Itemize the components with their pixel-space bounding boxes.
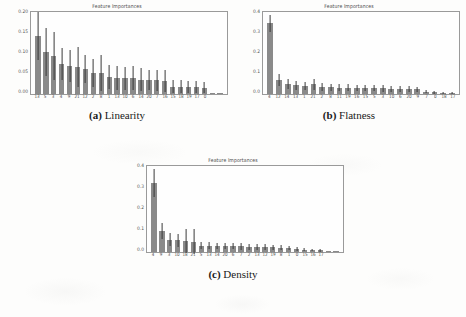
bar-slot	[192, 12, 200, 94]
caption-label: (a)	[89, 109, 102, 121]
x-axis-tick: 13	[291, 95, 300, 100]
x-axis-tick: 13	[253, 253, 261, 258]
bar-slot	[145, 12, 153, 94]
y-axis-tick: 0.0	[137, 247, 144, 252]
bar	[154, 80, 159, 94]
error-bar	[225, 243, 226, 250]
error-bar	[93, 59, 94, 87]
panel-density: Feature Importances0.40.30.20.10.0493101…	[122, 158, 344, 280]
bar-slot	[404, 12, 413, 94]
error-bar	[296, 247, 297, 251]
bar-slot	[34, 12, 42, 94]
error-bar	[348, 84, 349, 91]
x-axis-tick: 15	[301, 253, 309, 258]
x-axis-tick: 11	[335, 95, 344, 100]
bar-slot	[190, 166, 198, 252]
error-bar	[408, 86, 409, 91]
bar-slot	[174, 166, 182, 252]
bar	[114, 78, 119, 94]
bar	[276, 80, 282, 94]
bar-slot	[58, 12, 66, 94]
bar-slot	[150, 166, 158, 252]
panel-caption: (a) Linearity	[6, 109, 228, 121]
error-bar	[77, 47, 78, 87]
bar-slot	[387, 12, 396, 94]
bar-slot	[74, 12, 82, 94]
plot-area: 0.40.30.20.10.0	[122, 165, 344, 253]
bar-slot	[121, 12, 129, 94]
error-bar	[196, 81, 197, 94]
plot-axes	[262, 11, 460, 95]
error-bar	[172, 80, 173, 93]
bar-slot	[301, 166, 309, 252]
error-bar	[249, 244, 250, 250]
error-bar	[264, 244, 265, 250]
y-axis-tick: 0.1	[253, 69, 260, 74]
bar-slot	[177, 12, 185, 94]
x-axis-tick: 1	[300, 95, 309, 100]
caption-label: (c)	[208, 268, 220, 280]
x-axis-tick: 17	[317, 253, 325, 258]
y-axis-tick: 0.0	[253, 89, 260, 94]
x-axis-tick: 13	[205, 253, 213, 258]
bar	[162, 81, 167, 94]
bar	[167, 240, 172, 252]
x-axis-tick: 16	[161, 95, 169, 100]
y-axis-tick: 0.1	[137, 226, 144, 231]
x-axis-tick	[325, 253, 333, 258]
x-axis-tick: 4	[265, 95, 274, 100]
bar-slot	[308, 166, 316, 252]
x-axis-tick: 16	[352, 95, 361, 100]
bar	[183, 241, 188, 252]
bar-slot	[42, 12, 50, 94]
y-axis-tick: 0.4	[253, 10, 260, 15]
plot-area: 0.40.30.20.10.0	[238, 11, 460, 95]
error-bar	[257, 244, 258, 250]
error-bar	[38, 12, 39, 60]
error-bar	[45, 28, 46, 76]
bar-slot	[318, 12, 327, 94]
x-axis-tick: 3	[49, 95, 57, 100]
bar-slot	[275, 12, 284, 94]
error-bar	[391, 86, 392, 92]
error-bar	[400, 86, 401, 92]
bar	[130, 78, 135, 94]
bar-slot	[413, 12, 422, 94]
bar	[51, 56, 56, 94]
plot-area: 0.200.150.100.050.00	[6, 11, 228, 95]
bar-slot	[266, 12, 275, 94]
x-axis-tick: 12	[261, 253, 269, 258]
bar	[107, 77, 112, 94]
x-axis-tick: 6	[396, 95, 405, 100]
bar-slot	[129, 12, 137, 94]
y-axis-tick: 0.05	[18, 69, 28, 74]
x-axis-tick	[217, 95, 225, 100]
x-axis-tick: 10	[173, 253, 181, 258]
bar-slot	[158, 166, 166, 252]
x-axis-tick: 19	[269, 253, 277, 258]
panel-flatness: Feature Importances0.40.30.20.10.0412141…	[238, 4, 460, 121]
bar-slot	[253, 166, 261, 252]
bar-slot	[161, 12, 169, 94]
x-axis-tick: 8	[277, 253, 285, 258]
error-bar	[188, 81, 189, 94]
error-bar	[356, 85, 357, 92]
bar-slot	[447, 12, 456, 94]
chart-title: Feature Importances	[122, 158, 344, 164]
x-axis-tick-labels: 1353492112281131061420716151819170	[30, 95, 228, 100]
y-axis-tick: 0.00	[18, 89, 28, 94]
error-bar	[125, 67, 126, 89]
error-bar	[241, 243, 242, 250]
x-axis-tick: 5	[41, 95, 49, 100]
error-bar	[53, 32, 54, 80]
bar-slot	[97, 12, 105, 94]
bar-slot	[82, 12, 90, 94]
x-axis-tick: 18	[181, 253, 189, 258]
y-axis-tick: 0.10	[18, 50, 28, 55]
bar	[146, 80, 151, 94]
bar	[67, 66, 72, 94]
error-bar	[272, 245, 273, 251]
error-bar	[296, 81, 297, 90]
error-bar	[233, 243, 234, 250]
x-axis-tick: 17	[448, 95, 457, 100]
